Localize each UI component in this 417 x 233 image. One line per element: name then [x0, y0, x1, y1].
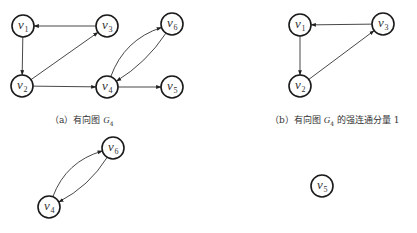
edge-b-v3-to-v1: [311, 24, 372, 25]
node-a-v4: v4: [96, 76, 118, 98]
caption-a-prefix: （a）有向图: [50, 115, 103, 125]
edge-c-v6-to-v4: [59, 157, 107, 202]
node-label: v: [44, 198, 50, 213]
node-subscript: 4: [109, 86, 113, 95]
node-label: v: [167, 78, 173, 93]
node-subscript: 3: [385, 23, 389, 32]
node-subscript: 2: [302, 85, 306, 94]
node-subscript: 5: [174, 86, 178, 95]
node-label: v: [317, 177, 323, 192]
node-subscript: 5: [324, 185, 328, 194]
node-a-v1: v1: [12, 15, 34, 37]
node-b-v1: v1: [289, 14, 311, 36]
caption-panel-b: （b）有向图 G4 的强连通分量 1: [270, 113, 399, 127]
node-subscript: 4: [51, 206, 55, 215]
node-subscript: 1: [25, 25, 29, 34]
caption-b-suffix: 的强连通分量 1: [334, 115, 399, 125]
node-b-v2: v2: [289, 75, 311, 97]
node-b-v3: v3: [372, 13, 394, 35]
node-a-v2: v2: [11, 75, 33, 97]
node-a-v5: v5: [161, 76, 183, 98]
edge-a-v2-to-v4: [33, 86, 96, 87]
edge-a-v6-to-v4: [116, 33, 166, 81]
node-d-v5: v5: [311, 175, 333, 197]
node-subscript: 3: [109, 25, 113, 34]
node-label: v: [295, 77, 301, 92]
node-c-v4: v4: [38, 196, 60, 218]
node-subscript: 6: [174, 23, 178, 32]
node-subscript: 1: [302, 24, 306, 33]
node-label: v: [108, 139, 114, 154]
caption-b-prefix: （b）有向图: [270, 115, 324, 125]
node-label: v: [295, 16, 301, 31]
node-label: v: [102, 17, 108, 32]
caption-a-sub: 4: [110, 120, 114, 127]
edge-a-v1-to-v2: [22, 37, 23, 75]
node-label: v: [102, 78, 108, 93]
caption-panel-a: （a）有向图 G4: [50, 113, 114, 127]
edge-b-v2-to-v3: [309, 31, 374, 80]
node-subscript: 2: [24, 85, 28, 94]
node-c-v6: v6: [102, 137, 124, 159]
node-label: v: [378, 15, 384, 30]
edge-a-v2-to-v3: [31, 32, 98, 79]
edge-a-v4-to-v6: [111, 27, 162, 76]
node-subscript: 6: [115, 147, 119, 156]
node-label: v: [17, 77, 23, 92]
node-a-v3: v3: [96, 15, 118, 37]
node-a-v6: v6: [161, 13, 183, 35]
node-label: v: [167, 15, 173, 30]
node-label: v: [18, 17, 24, 32]
